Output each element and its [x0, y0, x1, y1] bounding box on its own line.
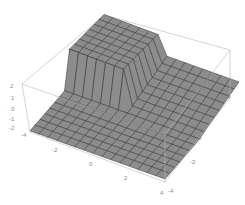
- x-axis-tick-label: 4: [160, 190, 164, 196]
- x-axis-tick-label: -2: [52, 147, 58, 153]
- y-axis-tick-label: -4: [168, 188, 174, 194]
- y-axis-tick-label: -2: [190, 159, 196, 165]
- surface-mesh: [30, 14, 239, 179]
- surface-plot: 210-1-2-4-2024-4-2024: [0, 0, 245, 205]
- x-axis-tick-label: 2: [124, 175, 128, 181]
- x-axis-tick-label: 0: [89, 161, 93, 167]
- z-axis-tick-label: -2: [9, 125, 15, 131]
- y-axis-tick-label: 4: [227, 94, 231, 100]
- z-axis-tick-label: 0: [11, 106, 15, 112]
- z-axis-tick-label: 1: [11, 95, 15, 101]
- z-axis-tick-label: -4: [21, 132, 27, 138]
- z-axis-tick-label: -1: [9, 116, 15, 122]
- z-axis-tick-label: 2: [10, 83, 14, 89]
